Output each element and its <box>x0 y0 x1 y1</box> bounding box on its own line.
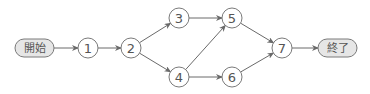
event-node-1: 1 <box>78 38 98 58</box>
event-node-5: 5 <box>222 8 242 28</box>
node-label: 5 <box>228 11 236 26</box>
end-terminal: 終了 <box>318 39 357 57</box>
node-label: 7 <box>278 41 286 56</box>
node-label: 1 <box>84 41 92 56</box>
arrow-4-to-5 <box>186 25 226 69</box>
event-node-2: 2 <box>121 38 141 58</box>
arrow-2-to-4 <box>140 53 171 72</box>
node-label: 6 <box>228 70 236 85</box>
arrow-5-to-7 <box>241 23 274 43</box>
arrow-6-to-7 <box>241 53 274 72</box>
event-node-3: 3 <box>169 8 189 28</box>
end-terminal-label: 終了 <box>327 41 349 55</box>
arrow-diagram: 開始終了1234567 <box>0 0 370 94</box>
event-node-6: 6 <box>222 67 242 87</box>
start-terminal-label: 開始 <box>24 41 46 55</box>
event-node-4: 4 <box>169 67 189 87</box>
start-terminal: 開始 <box>15 39 54 57</box>
event-node-7: 7 <box>272 38 292 58</box>
node-label: 3 <box>175 11 183 26</box>
node-label: 2 <box>127 41 135 56</box>
arrow-2-to-3 <box>139 23 170 42</box>
node-label: 4 <box>175 70 183 85</box>
